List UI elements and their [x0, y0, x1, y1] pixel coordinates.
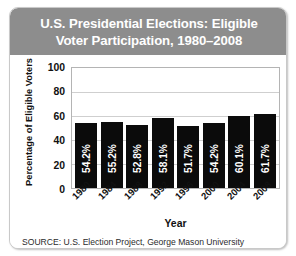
y-tick-60: 60: [17, 110, 65, 121]
bar-slot: 54.2%: [203, 68, 225, 188]
bar-slot: 58.1%: [152, 68, 174, 188]
bar-value-label: 54.2%: [81, 141, 92, 177]
bar-slot: 51.7%: [177, 68, 199, 188]
bar[interactable]: 58.1%: [152, 118, 174, 188]
bar-value-label: 61.7%: [259, 141, 270, 177]
x-tick-slot: 1996: [177, 191, 199, 221]
x-tick-slot: 1992: [152, 191, 174, 221]
bar-value-label: 51.7%: [183, 141, 194, 177]
chart-title-line-1: U.S. Presidential Elections: Eligible: [40, 15, 258, 32]
x-tick-slot: 1984: [100, 191, 122, 221]
y-tick-40: 40: [17, 135, 65, 146]
bar-slot: 54.2%: [75, 68, 97, 188]
y-axis-ticks: 100 80 60 40 20 0: [17, 67, 65, 189]
x-tick-slot: 1980: [74, 191, 96, 221]
chart-title-line-2: Voter Participation, 1980–2008: [56, 32, 243, 49]
x-tick-slot: 2000: [203, 191, 225, 221]
bar-value-label: 54.2%: [208, 141, 219, 177]
bar[interactable]: 60.1%: [228, 116, 250, 188]
bar[interactable]: 61.7%: [254, 114, 276, 188]
x-tick-slot: 1988: [126, 191, 148, 221]
y-tick-0: 0: [17, 184, 65, 195]
bar-value-label: 58.1%: [157, 141, 168, 177]
x-tick-slot: 2008: [255, 191, 277, 221]
chart-card: U.S. Presidential Elections: Eligible Vo…: [9, 7, 287, 249]
chart-header: U.S. Presidential Elections: Eligible Vo…: [10, 8, 287, 55]
y-tick-100: 100: [17, 62, 65, 73]
bar-slot: 61.7%: [254, 68, 276, 188]
y-tick-20: 20: [17, 159, 65, 170]
bar-slot: 52.8%: [126, 68, 148, 188]
chart-body: Percentage of Eligible Voters 100 80 60 …: [10, 55, 287, 249]
bar-series: 54.2% 55.2% 52.8% 58.1%: [72, 68, 279, 188]
source-note: SOURCE: U.S. Election Project, George Ma…: [22, 237, 244, 247]
x-axis-label: Year: [71, 218, 280, 229]
y-tick-80: 80: [17, 86, 65, 97]
bar[interactable]: 54.2%: [75, 123, 97, 188]
plot-area: 54.2% 55.2% 52.8% 58.1%: [71, 67, 280, 189]
bar[interactable]: 55.2%: [101, 122, 123, 188]
bar-value-label: 55.2%: [106, 141, 117, 177]
bar-value-label: 60.1%: [234, 141, 245, 177]
bar-value-label: 52.8%: [132, 141, 143, 177]
bar-slot: 60.1%: [228, 68, 250, 188]
x-tick-slot: 2004: [229, 191, 251, 221]
bar-slot: 55.2%: [101, 68, 123, 188]
x-axis-ticks: 1980 1984 1988 1992 1996 2000 2004 2008: [71, 191, 280, 221]
